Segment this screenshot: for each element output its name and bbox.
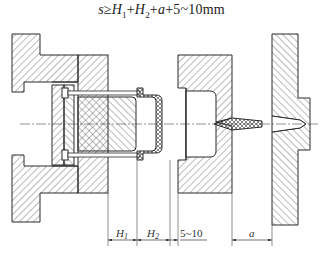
dim-label-a: a	[249, 227, 255, 239]
pin-head-top	[62, 88, 68, 98]
dim-label-5-10: 5~10	[180, 227, 203, 239]
right-fixed-plate	[272, 34, 310, 225]
left-clamp-top	[12, 34, 78, 92]
dim-label-h1: H1	[115, 227, 128, 241]
mold-diagram: H1 H2 5~10 a	[0, 0, 323, 253]
dim-label-h2: H2	[146, 227, 159, 241]
pin-head-bottom	[62, 150, 68, 160]
